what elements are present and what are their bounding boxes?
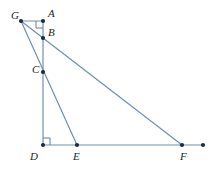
vertex-point-f (180, 143, 184, 147)
geometry-canvas: GABCDEF (0, 0, 218, 170)
vertex-point-d (41, 143, 45, 147)
segment-B-F (43, 38, 182, 145)
vertex-labels-layer: GABCDEF (11, 7, 187, 162)
vertex-label-g: G (11, 9, 19, 21)
vertex-label-a: A (47, 7, 55, 19)
vertex-point-g (19, 19, 23, 23)
vertex-point-c (41, 70, 45, 74)
vertex-label-c: C (32, 63, 40, 75)
vertex-point-a (41, 19, 45, 23)
vertex-label-f: F (179, 150, 187, 162)
segments-layer (21, 21, 203, 145)
vertex-points-layer (19, 19, 205, 147)
geometry-diagram: GABCDEF (0, 0, 218, 170)
vertex-point-e (75, 143, 79, 147)
vertex-point-h (201, 143, 205, 147)
vertex-label-e: E (72, 150, 80, 162)
vertex-point-b (41, 36, 45, 40)
segment-G-E (21, 21, 77, 145)
vertex-label-d: D (29, 150, 38, 162)
vertex-label-b: B (48, 26, 55, 38)
